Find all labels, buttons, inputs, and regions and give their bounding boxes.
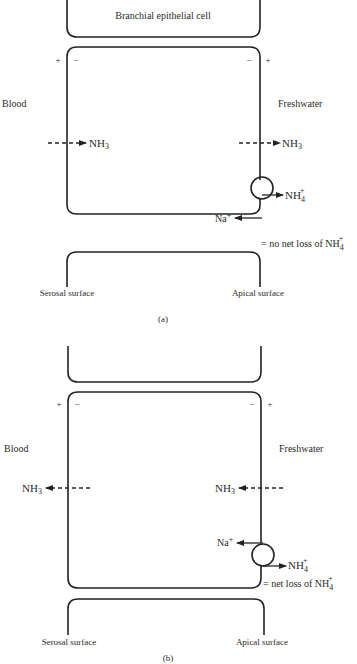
nh3-label-left: NH3 (89, 137, 109, 151)
na-label: Na+ (215, 211, 232, 224)
blood-label: Blood (4, 443, 28, 454)
left-plus: + (56, 399, 61, 409)
caption-a: (a) (158, 314, 168, 324)
caption-b: (b) (163, 653, 174, 663)
left-minus: − (73, 55, 78, 65)
left-minus: − (74, 399, 79, 409)
top-cell-label: Branchial epithelial cell (115, 10, 211, 21)
right-plus: + (267, 399, 272, 409)
apical-label: Apical surface (236, 637, 288, 647)
na-nh4-exchanger (252, 544, 274, 566)
bottom-cell-outline (68, 599, 264, 635)
blood-label: Blood (2, 98, 26, 109)
na-label: Na+ (217, 535, 234, 548)
nh4-label: NH4+ (285, 186, 305, 204)
serosal-label: Serosal surface (40, 288, 95, 298)
nh3-label-left: NH3 (22, 482, 42, 496)
top-cell-outline (68, 346, 261, 382)
nh3-label-right: NH3 (215, 482, 235, 496)
nh3-label-right: NH3 (282, 137, 302, 151)
freshwater-label: Freshwater (279, 443, 324, 454)
right-minus: − (249, 399, 254, 409)
serosal-label: Serosal surface (42, 637, 97, 647)
ammonia-excretion-diagram: Branchial epithelial cell + − − + Blood … (0, 0, 357, 664)
nh4-label: NH4+ (288, 556, 308, 574)
result-label: = net loss of NH4+ (263, 574, 333, 592)
panel-a: Branchial epithelial cell + − − + Blood … (2, 0, 344, 324)
result-label: = no net loss of NH4+ (261, 234, 344, 252)
apical-label: Apical surface (232, 288, 284, 298)
right-minus: − (246, 55, 251, 65)
freshwater-label: Freshwater (278, 98, 323, 109)
bottom-cell-outline (67, 252, 260, 287)
left-plus: + (55, 55, 60, 65)
right-plus: + (265, 55, 270, 65)
main-cell-outline (77, 47, 260, 180)
panel-b: + − − + Blood Freshwater NH3 NH3 Na+ NH4… (4, 346, 333, 663)
main-cell-outline (78, 392, 261, 543)
